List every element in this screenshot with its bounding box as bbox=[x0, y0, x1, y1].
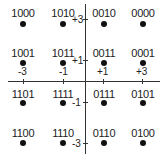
constellation-point bbox=[140, 100, 146, 106]
y-tick bbox=[83, 60, 88, 61]
point-label: 1010 bbox=[51, 8, 74, 19]
constellation-point bbox=[20, 140, 26, 146]
point-label: 0010 bbox=[92, 8, 115, 19]
constellation-point bbox=[60, 100, 66, 106]
point-label: 1001 bbox=[11, 48, 34, 59]
x-tick bbox=[63, 79, 64, 84]
point-label: 0000 bbox=[131, 8, 154, 19]
point-label: 1100 bbox=[12, 128, 34, 139]
point-label: 0001 bbox=[131, 48, 154, 59]
x-tick bbox=[103, 79, 104, 84]
point-label: 1101 bbox=[12, 89, 34, 100]
point-label: 0100 bbox=[131, 128, 154, 139]
x-tick-label: +3 bbox=[136, 67, 147, 77]
constellation-point bbox=[60, 60, 66, 66]
constellation-point bbox=[20, 100, 26, 106]
x-tick-label: -3 bbox=[18, 67, 27, 77]
constellation-point bbox=[140, 21, 146, 27]
constellation-point bbox=[140, 60, 146, 66]
point-label: 0101 bbox=[131, 89, 154, 100]
y-tick bbox=[83, 102, 88, 103]
constellation-point bbox=[60, 21, 66, 27]
x-tick bbox=[142, 79, 143, 84]
point-label: 1011 bbox=[52, 48, 74, 59]
point-label: 1111 bbox=[53, 89, 74, 100]
vertical-axis bbox=[85, 4, 86, 154]
horizontal-axis bbox=[8, 81, 160, 82]
constellation-point bbox=[20, 60, 26, 66]
constellation-point bbox=[101, 60, 107, 66]
point-label: 0111 bbox=[93, 89, 115, 100]
point-label: 1000 bbox=[11, 8, 34, 19]
y-tick bbox=[83, 143, 88, 144]
point-label: 0011 bbox=[93, 48, 115, 59]
x-tick bbox=[23, 79, 24, 84]
constellation-point bbox=[60, 140, 66, 146]
x-tick-label: -1 bbox=[59, 67, 68, 77]
x-tick-label: +1 bbox=[97, 67, 108, 77]
point-label: 1110 bbox=[52, 128, 74, 139]
constellation-point bbox=[20, 21, 26, 27]
constellation-point bbox=[101, 140, 107, 146]
point-label: 0110 bbox=[93, 128, 115, 139]
constellation-point bbox=[101, 21, 107, 27]
constellation-point bbox=[101, 100, 107, 106]
y-tick-label: -3 bbox=[72, 139, 81, 149]
constellation-point bbox=[140, 140, 146, 146]
y-tick bbox=[83, 19, 88, 20]
